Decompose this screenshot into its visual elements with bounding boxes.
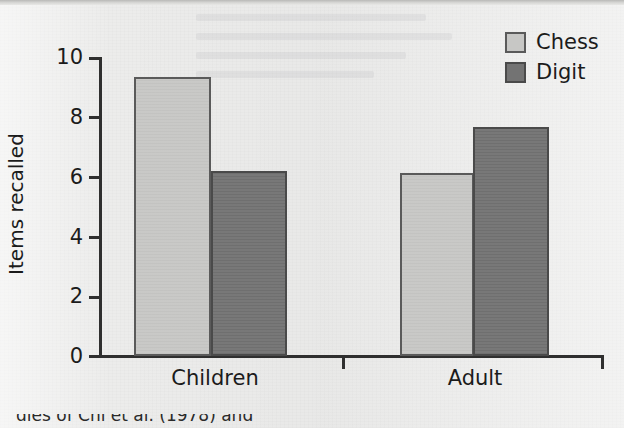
figure-caption-cutoff-clip: dies of Chi et al. (1978) and xyxy=(0,414,624,428)
chess-swatch-icon xyxy=(505,32,526,53)
y-tick-label-6: 6 xyxy=(49,167,83,188)
scanned-figure-page: 10 8 6 4 2 0 Items recalled Children Adu… xyxy=(0,0,624,428)
bar-children-chess xyxy=(134,77,211,356)
x-tick-axis-end xyxy=(601,358,604,369)
legend-item-digit[interactable]: Digit xyxy=(505,58,623,86)
bar-children-digit xyxy=(211,171,287,356)
legend-item-chess[interactable]: Chess xyxy=(505,28,623,56)
y-axis-line xyxy=(99,57,102,357)
digit-swatch-icon xyxy=(505,62,526,83)
legend-label-chess: Chess xyxy=(536,32,599,53)
y-tick-4 xyxy=(89,236,100,239)
bar-adult-digit xyxy=(473,127,549,356)
y-tick-10 xyxy=(89,57,100,60)
x-tick-label-children: Children xyxy=(150,366,280,390)
chart-legend: Chess Digit xyxy=(505,28,623,88)
y-tick-label-10: 10 xyxy=(49,47,83,68)
y-tick-6 xyxy=(89,176,100,179)
y-tick-label-4: 4 xyxy=(49,227,83,248)
y-tick-2 xyxy=(89,296,100,299)
legend-label-digit: Digit xyxy=(536,62,585,83)
bar-adult-chess xyxy=(400,173,474,356)
y-axis-title-wrap: Items recalled xyxy=(2,120,30,300)
figure-caption-cutoff: dies of Chi et al. (1978) and xyxy=(16,414,253,425)
x-tick-group-separator xyxy=(342,358,345,369)
x-tick-label-adult: Adult xyxy=(420,366,530,390)
y-tick-label-8: 8 xyxy=(49,107,83,128)
y-tick-label-0: 0 xyxy=(49,346,83,367)
y-tick-8 xyxy=(89,116,100,119)
y-axis-title: Items recalled xyxy=(4,114,28,294)
y-tick-label-2: 2 xyxy=(49,286,83,307)
